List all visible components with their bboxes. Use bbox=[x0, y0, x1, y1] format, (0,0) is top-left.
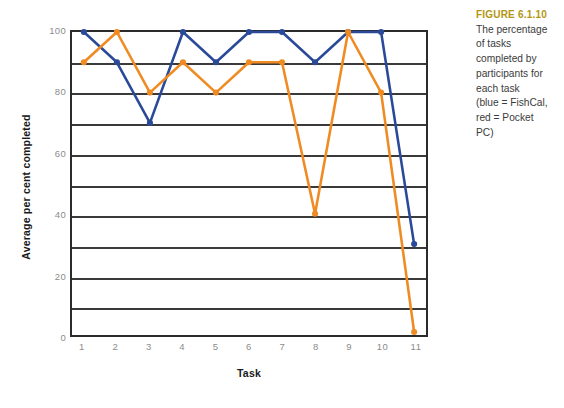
x-axis-tick-label: 11 bbox=[404, 341, 428, 352]
x-axis-tick-label: 5 bbox=[204, 341, 228, 352]
plot-svg bbox=[72, 32, 426, 335]
data-point[interactable] bbox=[114, 59, 120, 65]
figure-caption-body: The percentageof taskscompleted bypartic… bbox=[476, 23, 560, 141]
data-point[interactable] bbox=[378, 29, 384, 35]
y-axis-tick-label: 100 bbox=[38, 25, 66, 36]
series-pocket-pc bbox=[81, 29, 417, 335]
data-point[interactable] bbox=[81, 29, 87, 35]
data-point[interactable] bbox=[180, 29, 186, 35]
data-point[interactable] bbox=[345, 29, 351, 35]
series-line bbox=[84, 32, 414, 332]
x-axis-tick-label: 2 bbox=[103, 341, 127, 352]
x-axis-tick-label: 10 bbox=[371, 341, 395, 352]
data-point[interactable] bbox=[378, 90, 384, 96]
figure-caption-line: red = Pocket bbox=[476, 111, 560, 126]
y-axis-tick-label: 0 bbox=[38, 332, 66, 343]
y-axis-tick-label: 20 bbox=[38, 270, 66, 281]
figure-caption-line: The percentage bbox=[476, 23, 560, 38]
data-point[interactable] bbox=[411, 241, 417, 247]
line-chart: Average per cent completed 020406080100 … bbox=[0, 0, 436, 408]
x-axis-tick-labels: 1234567891011 bbox=[70, 341, 428, 357]
figure-container: Average per cent completed 020406080100 … bbox=[0, 0, 564, 408]
x-axis-tick-label: 4 bbox=[170, 341, 194, 352]
y-axis-title-label: Average per cent completed bbox=[20, 114, 32, 259]
data-point[interactable] bbox=[246, 29, 252, 35]
x-axis-tick-label: 9 bbox=[337, 341, 361, 352]
x-axis-tick-label: 7 bbox=[270, 341, 294, 352]
figure-caption-line: completed by bbox=[476, 52, 560, 67]
plot-area bbox=[70, 30, 428, 337]
data-point[interactable] bbox=[279, 59, 285, 65]
figure-caption-line: (blue = FishCal, bbox=[476, 96, 560, 111]
data-point[interactable] bbox=[213, 59, 219, 65]
data-point[interactable] bbox=[213, 90, 219, 96]
data-point[interactable] bbox=[279, 29, 285, 35]
x-axis-tick-label: 1 bbox=[70, 341, 94, 352]
figure-caption-line: PC) bbox=[476, 126, 560, 141]
x-axis-title: Task bbox=[70, 367, 428, 379]
y-axis-tick-label: 40 bbox=[38, 209, 66, 220]
data-point[interactable] bbox=[411, 329, 417, 335]
data-point[interactable] bbox=[180, 59, 186, 65]
data-point[interactable] bbox=[312, 211, 318, 217]
x-axis-tick-label: 8 bbox=[304, 341, 328, 352]
figure-caption-line: of tasks bbox=[476, 37, 560, 52]
y-axis-tick-label: 80 bbox=[38, 86, 66, 97]
figure-caption: FIGURE 6.1.10 The percentageof taskscomp… bbox=[476, 8, 560, 141]
figure-caption-line: each task bbox=[476, 82, 560, 97]
figure-caption-label: FIGURE 6.1.10 bbox=[476, 8, 560, 22]
y-axis-tick-label: 60 bbox=[38, 147, 66, 158]
data-point[interactable] bbox=[147, 90, 153, 96]
figure-caption-line: participants for bbox=[476, 67, 560, 82]
x-axis-tick-label: 3 bbox=[137, 341, 161, 352]
data-point[interactable] bbox=[312, 59, 318, 65]
x-axis-tick-label: 6 bbox=[237, 341, 261, 352]
data-point[interactable] bbox=[246, 59, 252, 65]
data-point[interactable] bbox=[81, 59, 87, 65]
data-point[interactable] bbox=[114, 29, 120, 35]
y-axis-tick-labels: 020406080100 bbox=[36, 30, 66, 337]
data-point[interactable] bbox=[147, 120, 153, 126]
y-axis-title: Average per cent completed bbox=[18, 52, 34, 322]
